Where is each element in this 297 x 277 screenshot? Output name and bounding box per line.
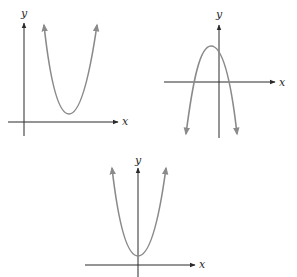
x-axis-label: x <box>279 76 286 89</box>
parabola-curve <box>186 46 211 134</box>
graph-1: y x <box>8 7 129 136</box>
graph-3: y x <box>85 154 206 277</box>
parabola-figure: y x y x y x <box>0 0 297 277</box>
graph-2: y x <box>164 8 286 138</box>
parabola-curve <box>112 168 138 256</box>
x-axis-label: x <box>122 115 129 128</box>
parabola-curve <box>44 25 69 114</box>
y-axis-label: y <box>134 154 142 167</box>
parabola-curve <box>138 168 166 256</box>
parabola-curve <box>69 25 97 114</box>
x-axis-label: x <box>199 258 206 271</box>
parabola-curve <box>211 46 237 134</box>
y-axis-label: y <box>215 8 223 21</box>
y-axis-label: y <box>20 7 28 20</box>
